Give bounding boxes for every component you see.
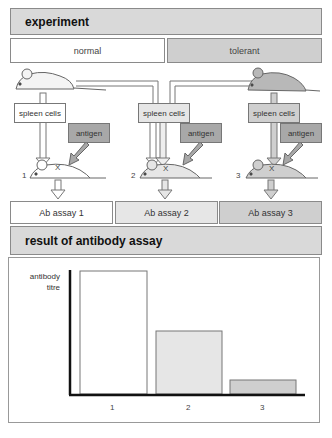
spleen-cells-label-3: spleen cells xyxy=(248,103,300,123)
x-tick-2: 2 xyxy=(186,403,190,412)
recipient-number-1: 1 xyxy=(22,171,26,180)
mouse-icon-donor-normal xyxy=(16,69,106,90)
x-tick-3: 3 xyxy=(260,403,264,412)
y-axis-label: antibody titre xyxy=(22,271,60,293)
arrow-assay-3 xyxy=(264,180,278,199)
result-title: result of antibody assay xyxy=(25,234,162,248)
assay-box-3: Ab assay 3 xyxy=(219,201,322,224)
antigen-label-2: antigen xyxy=(180,123,222,143)
assay-box-1: Ab assay 1 xyxy=(10,201,113,224)
arrow-antigen-3 xyxy=(283,142,303,165)
antigen-label-3: antigen xyxy=(280,123,322,143)
x-tick-1: 1 xyxy=(110,403,114,412)
arrow-assay-2 xyxy=(158,180,172,199)
mouse-icon-recipient-1 xyxy=(30,160,106,178)
recipient-number-3: 3 xyxy=(236,171,240,180)
spleen-cells-label-2: spleen cells xyxy=(138,103,190,123)
result-header: result of antibody assay xyxy=(10,226,322,255)
cross-mark-3: X xyxy=(269,164,274,173)
arrow-assay-1 xyxy=(51,180,65,199)
assay-box-2: Ab assay 2 xyxy=(115,201,218,224)
arrow-spleen-2 xyxy=(146,122,170,166)
cross-mark-1: X xyxy=(55,163,60,172)
cross-mark-2: X xyxy=(163,164,168,173)
mouse-icon-recipient-2 xyxy=(140,160,212,178)
arrow-antigen-1 xyxy=(69,142,89,165)
mouse-icon-recipient-3 xyxy=(246,160,318,178)
arrow-antigen-2 xyxy=(183,142,203,165)
recipient-number-2: 2 xyxy=(131,171,135,180)
antigen-label-1: antigen xyxy=(68,123,110,143)
spleen-cells-label-1: spleen cells xyxy=(14,103,66,123)
mouse-icon-donor-tolerant xyxy=(248,68,320,91)
